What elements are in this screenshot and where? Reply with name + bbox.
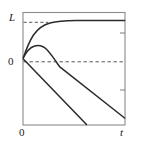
- x-axis-label: t: [120, 127, 123, 138]
- graph-figure: L 0 0 t: [0, 0, 142, 145]
- x-axis-zero-label: 0: [19, 127, 25, 138]
- y-axis-asymptote-label: L: [9, 12, 15, 23]
- y-axis-zero-label: 0: [8, 56, 14, 67]
- plot-canvas: [0, 0, 142, 145]
